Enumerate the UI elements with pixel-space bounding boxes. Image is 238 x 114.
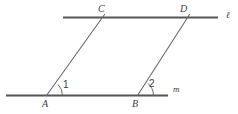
point-label-b: B	[132, 99, 138, 109]
angle-label-1: 1	[63, 80, 69, 90]
line-label-l: ℓ	[226, 11, 230, 20]
transversal-bd-segment	[138, 15, 190, 96]
line-label-m: m	[173, 85, 180, 94]
angle-label-2: 2	[149, 79, 155, 89]
geometry-figure: C D A B 1 2 ℓ m	[0, 0, 238, 114]
point-label-d: D	[180, 4, 187, 14]
angle-1-arc	[58, 84, 63, 95]
geometry-canvas	[0, 0, 238, 114]
transversal-ac-segment	[47, 15, 105, 96]
point-label-a: A	[42, 99, 48, 109]
point-label-c: C	[98, 4, 105, 14]
